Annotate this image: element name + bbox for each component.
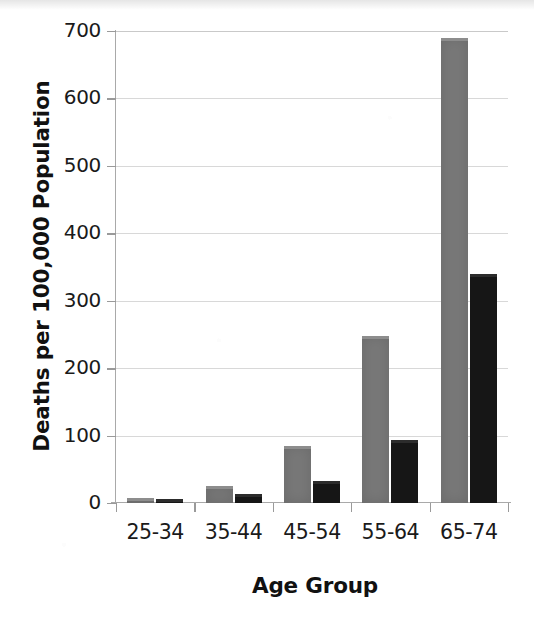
x-axis-tick-mark [430,503,431,512]
x-axis-tick-label: 55-64 [351,520,429,544]
x-axis-tick-mark [351,503,352,512]
y-axis-tick-mark [107,503,116,504]
y-axis-tick-label: 0 [41,492,101,512]
x-axis-title-text: Age Group [252,573,378,598]
y-axis-tick-mark [107,436,116,437]
x-axis-tick-mark [116,503,117,512]
x-axis-tick-mark [273,503,274,512]
bar-series-1 [284,446,311,503]
y-axis-tick-label: 200 [41,357,101,377]
bar-series-2 [156,499,183,503]
y-axis-tick-label: 100 [41,425,101,445]
y-axis-tick-label: 500 [41,155,101,175]
gridline [116,31,508,32]
y-axis-tick-mark [107,301,116,302]
y-axis-tick-label: 600 [41,87,101,107]
bar-series-2 [391,440,418,503]
y-axis-tick-labels: 0100200300400500600700 [37,0,101,619]
bar-series-2 [313,481,340,503]
bar-series-1 [441,38,468,503]
x-axis-tick-mark [194,503,195,512]
x-axis-tick-mark [508,503,509,512]
x-axis-tick-label: 35-44 [194,520,272,544]
y-axis-tick-mark [107,166,116,167]
bar-series-2 [235,494,262,503]
bar-series-1 [206,486,233,503]
x-axis-title: Age Group [180,573,450,598]
x-axis-tick-label: 65-74 [430,520,508,544]
plot-area [116,31,508,503]
y-axis-tick-mark [107,368,116,369]
bar-series-2 [470,274,497,503]
x-axis-tick-label: 45-54 [273,520,351,544]
y-axis-tick-mark [107,31,116,32]
y-axis-tick-label: 700 [41,20,101,40]
y-axis-tick-mark [107,233,116,234]
y-axis-tick-label: 300 [41,290,101,310]
y-axis-tick-mark [107,98,116,99]
x-axis-tick-label: 25-34 [116,520,194,544]
bar-series-1 [127,498,154,503]
y-axis-tick-label: 400 [41,222,101,242]
bar-series-1 [362,336,389,503]
bar-chart: Deaths per 100,000 Population 0100200300… [0,0,534,619]
